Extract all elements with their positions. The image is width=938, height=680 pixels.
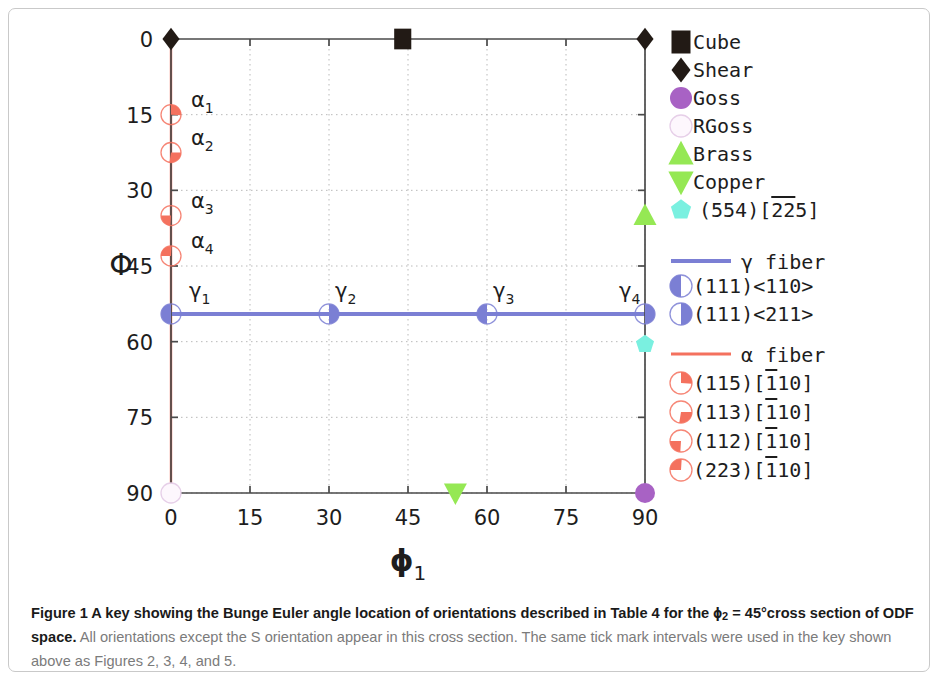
ytick-label: 15 bbox=[126, 104, 153, 128]
legend-label-115110: (115)[110] bbox=[693, 371, 813, 395]
legend-label-554225: (554)[225] bbox=[699, 198, 819, 222]
data-point-Brass bbox=[634, 204, 657, 226]
point-label-γ2: γ2 bbox=[335, 279, 356, 307]
ytick-label: 75 bbox=[126, 406, 153, 430]
legend-marker-Cube bbox=[672, 31, 691, 54]
data-point-RGoss bbox=[161, 483, 181, 503]
legend-marker-Brass bbox=[668, 141, 693, 165]
figure-caption: Figure 1 A key showing the Bunge Euler a… bbox=[31, 601, 919, 674]
data-point-Copper bbox=[444, 484, 467, 506]
ytick-label: 60 bbox=[126, 331, 153, 355]
caption-phi2: ϕ bbox=[713, 604, 722, 621]
data-point-Shear bbox=[636, 28, 653, 51]
odf-key-chart: 01530456075900153045607590 α1α2α3α4γ1γ2γ… bbox=[9, 9, 931, 673]
point-label-α1: α1 bbox=[191, 88, 214, 116]
legend-layer: CubeShearGossRGossBrassCopper(554)[225]γ… bbox=[668, 30, 825, 482]
legend-marker-Shear bbox=[672, 58, 691, 83]
point-label-α3: α3 bbox=[191, 189, 214, 217]
legend-label-111211: (111)<211> bbox=[693, 302, 813, 326]
figure-card: 01530456075900153045607590 α1α2α3α4γ1γ2γ… bbox=[8, 8, 930, 672]
legend-marker-112110 bbox=[670, 430, 692, 452]
point-label-α2: α2 bbox=[191, 126, 214, 154]
legend-marker-Goss bbox=[670, 87, 692, 109]
data-point-Goss bbox=[635, 483, 655, 503]
legend-marker-Copper bbox=[668, 172, 693, 196]
legend-label-111110: (111)<110> bbox=[693, 274, 813, 298]
legend-marker-554225 bbox=[671, 199, 691, 218]
legend-marker-RGoss bbox=[670, 115, 692, 137]
point-label-α4: α4 bbox=[191, 229, 214, 257]
legend-marker-111211 bbox=[670, 303, 692, 325]
point-label-γ4: γ4 bbox=[619, 279, 640, 307]
xtick-label: 30 bbox=[316, 506, 343, 530]
data-point-Shear bbox=[162, 28, 179, 51]
legend-label-Shear: Shear bbox=[693, 58, 753, 82]
point-label-layer: α1α2α3α4γ1γ2γ3γ4 bbox=[189, 88, 640, 307]
ytick-label: 90 bbox=[126, 482, 153, 506]
legend-marker-115110 bbox=[670, 372, 692, 394]
point-label-γ3: γ3 bbox=[493, 279, 514, 307]
grid-layer bbox=[171, 39, 645, 493]
legend-label-Goss: Goss bbox=[693, 86, 741, 110]
axis-label-layer: Φϕ1 bbox=[109, 247, 426, 585]
caption-lead: Figure 1 A key showing the Bunge Euler a… bbox=[31, 605, 713, 621]
legend-label-113110: (113)[110] bbox=[693, 400, 813, 424]
xtick-label: 15 bbox=[237, 506, 264, 530]
xtick-label: 90 bbox=[632, 506, 659, 530]
xtick-label: 0 bbox=[164, 506, 177, 530]
legend-marker-223110 bbox=[670, 459, 692, 481]
legend-alpha-fiber-title: α fiber bbox=[741, 343, 825, 367]
caption-body: All orientations except the S orientatio… bbox=[31, 629, 891, 669]
legend-label-Cube: Cube bbox=[693, 30, 741, 54]
legend-label-112110: (112)[110] bbox=[693, 429, 813, 453]
data-point-554225 bbox=[636, 335, 654, 352]
legend-label-Brass: Brass bbox=[693, 142, 753, 166]
y-axis-label: Φ bbox=[109, 247, 133, 282]
xtick-label: 60 bbox=[474, 506, 501, 530]
ytick-label: 0 bbox=[140, 28, 153, 52]
legend-label-223110: (223)[110] bbox=[693, 458, 813, 482]
data-point-Cube bbox=[394, 29, 411, 50]
x-axis-label: ϕ1 bbox=[390, 543, 427, 585]
point-label-γ1: γ1 bbox=[189, 279, 210, 307]
legend-marker-111110 bbox=[670, 275, 692, 297]
xtick-label: 75 bbox=[553, 506, 580, 530]
legend-label-Copper: Copper bbox=[693, 170, 765, 194]
xtick-label: 45 bbox=[395, 506, 422, 530]
legend-marker-113110 bbox=[670, 401, 692, 423]
legend-label-RGoss: RGoss bbox=[693, 114, 753, 138]
ytick-label: 30 bbox=[126, 179, 153, 203]
legend-gamma-fiber-title: γ fiber bbox=[741, 250, 825, 274]
